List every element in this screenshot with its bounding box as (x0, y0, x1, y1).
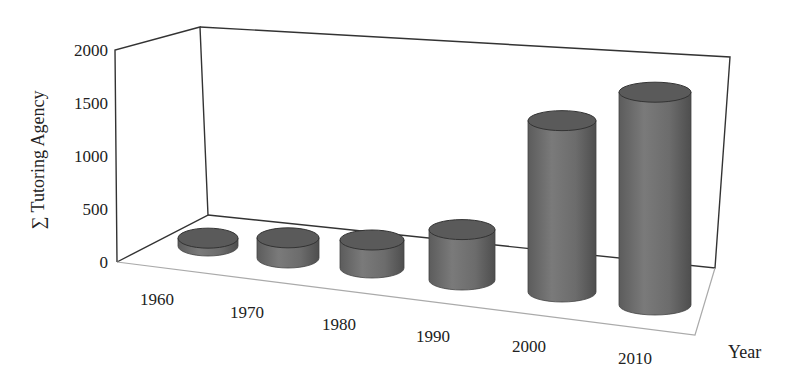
y-tick-label: 2000 (74, 41, 108, 60)
cylinder-bar-1960 (178, 228, 238, 256)
y-tick-label: 0 (100, 253, 109, 272)
x-axis-ticks: 196019701980199020002010 (140, 290, 652, 368)
chart-canvas: 0500100015002000 19601970198019902000201… (0, 0, 791, 392)
x-tick-label: 1990 (416, 327, 450, 346)
x-tick-label: 1960 (140, 290, 174, 309)
y-tick-label: 1000 (74, 147, 108, 166)
y-axis-ticks: 0500100015002000 (74, 41, 108, 272)
x-tick-label: 2000 (512, 337, 546, 356)
y-tick-label: 500 (83, 200, 109, 219)
y-axis-title: ∑ Tutoring Agency (28, 91, 48, 230)
x-tick-label: 2010 (618, 349, 652, 368)
y-tick-label: 1500 (74, 94, 108, 113)
cylinder-bars (178, 82, 691, 315)
cylinder-bar-1990 (429, 220, 495, 290)
cylinder-bar-1970 (257, 228, 319, 268)
cylinder-bar-2010 (619, 82, 691, 315)
cylinder-bar-1980 (340, 230, 404, 278)
cylinder-chart: 0500100015002000 19601970198019902000201… (0, 0, 791, 392)
x-tick-label: 1980 (322, 315, 356, 334)
left-wall (115, 27, 208, 262)
cylinder-bar-2000 (528, 111, 596, 302)
x-tick-label: 1970 (230, 303, 264, 322)
x-axis-title: Year (728, 342, 761, 362)
